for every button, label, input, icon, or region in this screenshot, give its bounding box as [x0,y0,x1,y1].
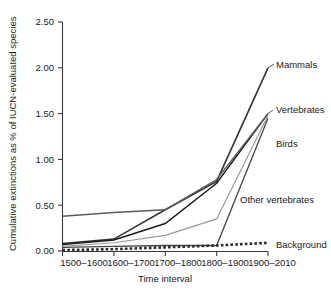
x-axis-title: Time interval [138,273,192,284]
series-label-mammals: Mammals [276,59,317,70]
chart-figure: Cumulative extinctions as % of IUCN-eval… [0,0,331,294]
y-tick-label-1-50: 1.50 [36,108,55,119]
x-tick-label-3: 1800–1900 [201,257,249,268]
x-tick-label-4: 1900–2010 [248,257,296,268]
series-label-background: Background [276,239,327,250]
y-axis-title: Cumulative extinctions as % of IUCN-eval… [7,16,18,251]
series-label-vertebrates: Vertebrates [276,104,325,115]
series-label-other-vertebrates: Other vertebrates [240,194,314,205]
y-tick-label-1-00: 1.00 [36,154,55,165]
x-tick-labels: 1500–1600 1600–1700 1700–1800 1800–1900 … [60,257,296,268]
y-tick-label-2-50: 2.50 [36,16,55,27]
y-tick-label-0-00: 0.00 [36,245,55,256]
x-tick-label-2: 1700–1800 [154,257,202,268]
extinctions-line-chart: Cumulative extinctions as % of IUCN-eval… [0,0,331,294]
x-tick-label-1: 1600–1700 [107,257,155,268]
y-tick-label-2-00: 2.00 [36,62,55,73]
x-tick-label-0: 1500–1600 [60,257,108,268]
series-label-birds: Birds [276,138,298,149]
y-tick-label-0-50: 0.50 [36,200,55,211]
